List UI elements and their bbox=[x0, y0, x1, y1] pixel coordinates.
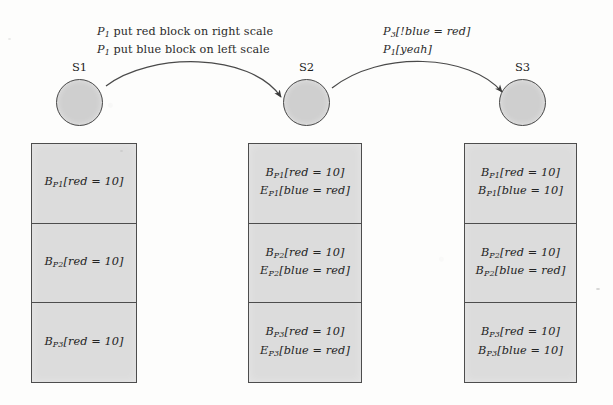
line-symbol: B bbox=[44, 175, 52, 188]
line-body: [blue = 10] bbox=[497, 344, 563, 357]
line-symbol: B bbox=[44, 335, 52, 348]
transition-line: P3[!blue = red] bbox=[383, 24, 471, 42]
history-cell: BP2[red = 10] EP2[blue = red] bbox=[249, 224, 361, 304]
arrow-s2-s3 bbox=[332, 61, 502, 92]
state-node-s3[interactable]: S3 bbox=[499, 79, 546, 126]
transition-label-s2-s3: P3[!blue = red] P1[yeah] bbox=[383, 24, 471, 60]
line-body: [blue = red] bbox=[495, 264, 566, 277]
line-subscript: P2 bbox=[268, 269, 279, 278]
line-subscript: P2 bbox=[484, 269, 495, 278]
history-line: BP2[red = 10] bbox=[481, 245, 560, 263]
history-column-s2: BP1[red = 10] EP1[blue = red] BP2[red = … bbox=[248, 143, 362, 383]
line-subscript: P3 bbox=[53, 339, 64, 348]
arrow-s1-s2 bbox=[106, 62, 281, 97]
line-symbol: B bbox=[265, 246, 273, 259]
circle-icon bbox=[56, 79, 103, 126]
line-body: [blue = 10] bbox=[497, 184, 563, 197]
line-body: [blue = red] bbox=[279, 184, 350, 197]
history-column-s3: BP1[red = 10] BP1[blue = 10] BP2[red = 1… bbox=[464, 143, 577, 383]
history-line: EP2[blue = red] bbox=[260, 263, 350, 281]
line-body: [red = 10] bbox=[63, 255, 123, 268]
line-body: [red = 10] bbox=[284, 166, 344, 179]
line-subscript: P1 bbox=[274, 171, 285, 180]
transition-text: [!blue = red] bbox=[396, 25, 471, 38]
history-line: EP1[blue = red] bbox=[260, 183, 350, 201]
history-line: BP1[red = 10] bbox=[481, 165, 560, 183]
actor-symbol: P bbox=[383, 25, 391, 38]
line-body: [red = 10] bbox=[500, 166, 560, 179]
line-symbol: B bbox=[476, 264, 484, 277]
line-body: [red = 10] bbox=[63, 175, 123, 188]
history-cell: BP1[red = 10] EP1[blue = red] bbox=[249, 144, 361, 224]
history-line: BP2[red = 10] bbox=[265, 245, 344, 263]
state-node-s1[interactable]: S1 bbox=[56, 79, 103, 126]
history-line: BP3[red = 10] bbox=[265, 324, 344, 342]
state-node-s2[interactable]: S2 bbox=[283, 79, 330, 126]
transition-line: P1 put blue block on left scale bbox=[97, 42, 273, 60]
scan-artifact bbox=[120, 150, 123, 152]
history-line: BP1[blue = 10] bbox=[478, 183, 563, 201]
history-cell: BP3[red = 10] EP3[blue = red] bbox=[249, 303, 361, 382]
line-body: [blue = red] bbox=[279, 344, 350, 357]
line-subscript: P3 bbox=[274, 330, 285, 339]
line-body: [red = 10] bbox=[500, 325, 560, 338]
state-label: S1 bbox=[72, 60, 87, 74]
transition-text: put red block on right scale bbox=[110, 25, 273, 38]
line-subscript: P2 bbox=[489, 251, 500, 260]
transition-label-s1-s2: P1 put red block on right scale P1 put b… bbox=[97, 24, 273, 60]
history-column-s1: BP1[red = 10] BP2[red = 10] BP3[red = 10… bbox=[31, 143, 137, 383]
line-subscript: P3 bbox=[486, 348, 497, 357]
line-subscript: P1 bbox=[486, 189, 497, 198]
transition-line: P1[yeah] bbox=[383, 42, 471, 60]
history-cell: BP2[red = 10] bbox=[32, 224, 136, 304]
line-symbol: B bbox=[265, 166, 273, 179]
history-cell: BP3[red = 10] BP3[blue = 10] bbox=[465, 303, 576, 382]
line-body: [blue = red] bbox=[279, 264, 350, 277]
history-line: BP2[blue = red] bbox=[476, 263, 566, 281]
line-subscript: P2 bbox=[53, 260, 64, 269]
history-line: BP3[red = 10] bbox=[44, 334, 123, 352]
history-line: BP1[red = 10] bbox=[44, 174, 123, 192]
line-subscript: P1 bbox=[489, 171, 500, 180]
transition-line: P1 put red block on right scale bbox=[97, 24, 273, 42]
state-label: S2 bbox=[299, 60, 314, 74]
actor-symbol: P bbox=[97, 25, 105, 38]
history-line: BP2[red = 10] bbox=[44, 254, 123, 272]
line-body: [red = 10] bbox=[63, 335, 123, 348]
history-line: BP1[red = 10] bbox=[265, 165, 344, 183]
circle-icon bbox=[499, 79, 546, 126]
line-subscript: P3 bbox=[268, 348, 279, 357]
history-cell: BP3[red = 10] bbox=[32, 303, 136, 382]
circle-icon bbox=[283, 79, 330, 126]
history-line: BP3[red = 10] bbox=[481, 324, 560, 342]
line-subscript: P2 bbox=[274, 251, 285, 260]
history-line: EP3[blue = red] bbox=[260, 343, 350, 361]
history-cell: BP1[red = 10] BP1[blue = 10] bbox=[465, 144, 576, 224]
line-subscript: P3 bbox=[489, 330, 500, 339]
line-body: [red = 10] bbox=[284, 325, 344, 338]
line-subscript: P1 bbox=[268, 189, 279, 198]
actor-symbol: P bbox=[383, 43, 391, 56]
transition-text: [yeah] bbox=[396, 43, 432, 56]
history-line: BP3[blue = 10] bbox=[478, 343, 563, 361]
state-label: S3 bbox=[515, 60, 530, 74]
actor-symbol: P bbox=[97, 43, 105, 56]
figure-canvas: P1 put red block on right scale P1 put b… bbox=[0, 0, 613, 405]
history-cell: BP1[red = 10] bbox=[32, 144, 136, 224]
line-symbol: B bbox=[44, 255, 52, 268]
scan-artifact bbox=[596, 288, 600, 290]
scan-artifact bbox=[8, 38, 11, 40]
transition-text: put blue block on left scale bbox=[110, 43, 270, 56]
line-symbol: B bbox=[265, 325, 273, 338]
line-subscript: P1 bbox=[53, 180, 64, 189]
history-cell: BP2[red = 10] BP2[blue = red] bbox=[465, 224, 576, 304]
line-body: [red = 10] bbox=[284, 246, 344, 259]
line-body: [red = 10] bbox=[500, 246, 560, 259]
